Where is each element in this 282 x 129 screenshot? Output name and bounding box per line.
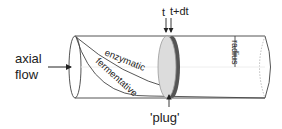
label-axial: axial bbox=[15, 51, 42, 66]
label-plug: 'plug' bbox=[150, 110, 180, 125]
label-t-dt: t+dt bbox=[170, 5, 189, 17]
plug-face bbox=[158, 36, 176, 98]
plug-flow-diagram: axial flow enzymatic fermentative t t+dt… bbox=[0, 0, 282, 129]
label-flow: flow bbox=[15, 67, 39, 82]
plug bbox=[158, 36, 180, 98]
cylinder-outlet-front bbox=[265, 36, 271, 98]
label-radius: radius bbox=[230, 40, 240, 65]
label-t: t bbox=[162, 6, 165, 18]
